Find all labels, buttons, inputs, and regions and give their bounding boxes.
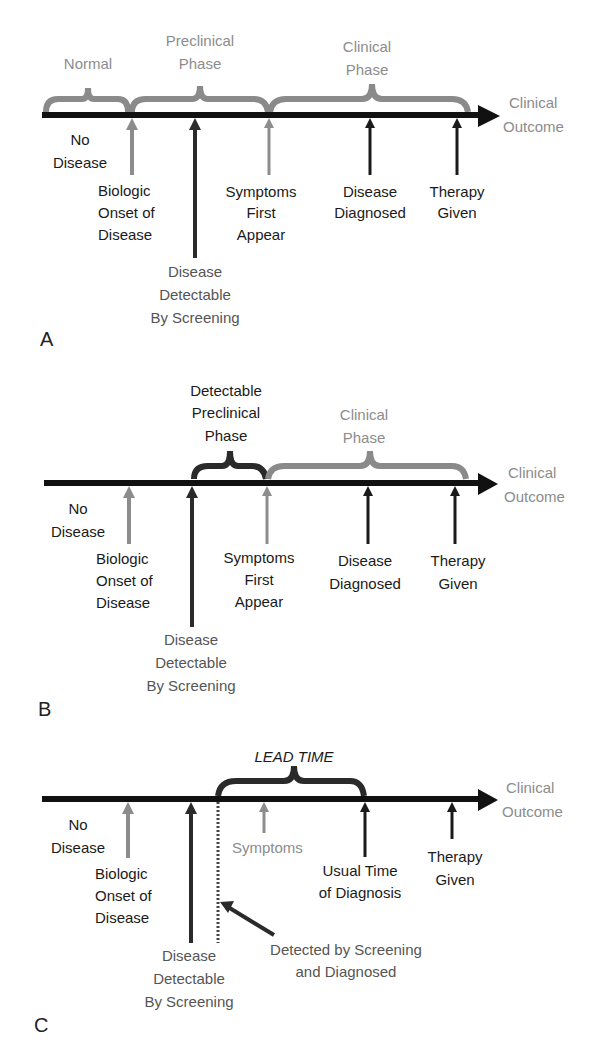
outcome-label-line2: Outcome — [502, 803, 563, 820]
panel-letter-a: A — [40, 328, 54, 350]
outcome-label-line2: Outcome — [503, 118, 564, 135]
screening-timeline-figure: Normal Preclinical Phase Clinical Phase … — [0, 0, 604, 1050]
lead-time-label: LEAD TIME — [254, 748, 334, 765]
therapy-line2: Given — [438, 575, 477, 592]
brace-label-normal: Normal — [64, 55, 112, 72]
onset-line1: Biologic — [98, 182, 151, 199]
symptoms-line3: Appear — [235, 593, 283, 610]
arrow-symptoms-head — [264, 118, 274, 128]
detectable-line3: By Screening — [150, 309, 239, 326]
arrow-onset-head — [122, 802, 134, 814]
outcome-label-line1: Clinical — [508, 464, 556, 481]
no-disease-line2: Disease — [53, 154, 107, 171]
diagnosed-line1: Disease — [343, 183, 397, 200]
therapy-line1: Therapy — [430, 552, 486, 569]
usual-time-line1: Usual Time — [322, 862, 397, 879]
onset-line1: Biologic — [95, 865, 148, 882]
no-disease-line1: No — [70, 131, 89, 148]
brace-label-clinical-line2: Phase — [343, 429, 386, 446]
symptoms-label: Symptoms — [232, 839, 303, 856]
usual-time-line2: of Diagnosis — [319, 884, 402, 901]
outcome-label-line2: Outcome — [504, 488, 565, 505]
arrow-detectable-head — [186, 486, 198, 498]
axis-arrowhead — [478, 473, 498, 495]
onset-line2: Onset of — [95, 887, 153, 904]
diagnosed-line2: Diagnosed — [329, 575, 401, 592]
onset-line2: Onset of — [98, 204, 156, 221]
symptoms-line1: Symptoms — [226, 183, 297, 200]
brace-preclinical — [132, 86, 268, 112]
onset-line3: Disease — [98, 226, 152, 243]
no-disease-line1: No — [68, 500, 87, 517]
therapy-line1: Therapy — [427, 848, 483, 865]
screened-line2: and Diagnosed — [296, 963, 397, 980]
detectable-line1: Disease — [168, 263, 222, 280]
therapy-line2: Given — [435, 871, 474, 888]
detectable-line2: Detectable — [153, 970, 225, 987]
brace-lead-time — [218, 766, 364, 796]
panel-b: Detectable Preclinical Phase Clinical Ph… — [38, 382, 565, 720]
panel-letter-b: B — [38, 698, 51, 720]
detectable-line2: Detectable — [159, 286, 231, 303]
detectable-line3: By Screening — [144, 993, 233, 1010]
arrow-detectable-head — [189, 118, 201, 130]
arrow-symptoms-head — [259, 802, 269, 812]
detectable-line2: Detectable — [155, 654, 227, 671]
onset-line1: Biologic — [96, 550, 149, 567]
symptoms-line2: First — [246, 204, 276, 221]
arrow-symptoms-head — [262, 486, 272, 496]
onset-line2: Onset of — [96, 572, 154, 589]
brace-label-clinical-line1: Clinical — [343, 38, 391, 55]
brace-detectable-preclinical — [194, 451, 266, 479]
diagnosed-line2: Diagnosed — [334, 204, 406, 221]
detectable-line3: By Screening — [146, 677, 235, 694]
arrow-therapy-head — [450, 486, 460, 496]
brace-clinical — [268, 451, 466, 479]
diagnosed-line1: Disease — [338, 552, 392, 569]
detectable-line1: Disease — [162, 947, 216, 964]
symptoms-line1: Symptoms — [224, 549, 295, 566]
symptoms-line2: First — [244, 571, 274, 588]
arrow-therapy-head — [447, 802, 457, 812]
therapy-line1: Therapy — [429, 183, 485, 200]
no-disease-line1: No — [68, 816, 87, 833]
symptoms-line3: Appear — [237, 226, 285, 243]
brace-label-detectable-line1: Detectable — [190, 382, 262, 399]
screened-line1: Detected by Screening — [270, 941, 422, 958]
no-disease-line2: Disease — [51, 523, 105, 540]
arrow-usual-diagnosis-head — [360, 802, 370, 812]
arrow-detectable-head — [185, 802, 197, 814]
pointer-arrow — [228, 907, 274, 935]
brace-label-clinical-line1: Clinical — [340, 406, 388, 423]
brace-label-preclinical-line2: Phase — [179, 55, 222, 72]
detectable-line1: Disease — [164, 631, 218, 648]
brace-label-detectable-line3: Phase — [205, 427, 248, 444]
arrow-onset-head — [123, 486, 135, 498]
therapy-line2: Given — [437, 204, 476, 221]
axis-arrowhead — [478, 789, 498, 811]
panel-c: LEAD TIME Clinical Outcome No Disease Sy… — [34, 748, 563, 1036]
brace-label-preclinical-line1: Preclinical — [166, 32, 234, 49]
panel-a: Normal Preclinical Phase Clinical Phase … — [40, 32, 564, 350]
outcome-label-line1: Clinical — [506, 779, 554, 796]
panel-letter-c: C — [34, 1014, 48, 1036]
no-disease-line2: Disease — [51, 839, 105, 856]
onset-line3: Disease — [96, 594, 150, 611]
brace-label-detectable-line2: Preclinical — [192, 404, 260, 421]
brace-label-clinical-line2: Phase — [346, 61, 389, 78]
arrow-therapy-head — [452, 118, 462, 128]
axis-arrowhead — [478, 105, 500, 127]
arrow-diagnosed-head — [365, 118, 375, 128]
brace-normal — [46, 88, 128, 112]
onset-line3: Disease — [95, 909, 149, 926]
outcome-label-line1: Clinical — [509, 94, 557, 111]
brace-clinical — [270, 84, 468, 112]
arrow-onset-head — [126, 118, 138, 130]
arrow-diagnosed-head — [363, 486, 373, 496]
